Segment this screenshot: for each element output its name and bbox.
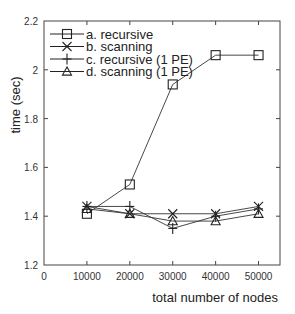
x-tick-label: 0	[41, 271, 47, 282]
line-chart: 010000200003000040000500001.21.41.61.822…	[0, 0, 295, 314]
x-axis-title: total number of nodes	[152, 290, 278, 305]
y-tick-label: 1.6	[24, 162, 38, 173]
legend-label: d. scanning (1 PE)	[86, 64, 193, 79]
legend: a. recursiveb. scanningc. recursive (1 P…	[50, 27, 193, 80]
y-axis-title: time (sec)	[8, 76, 23, 133]
y-tick-label: 1.8	[24, 114, 38, 125]
y-tick-label: 1.2	[24, 260, 38, 271]
x-tick-label: 20000	[116, 271, 144, 282]
x-tick-label: 50000	[245, 271, 273, 282]
x-tick-label: 10000	[73, 271, 101, 282]
legend-item: d. scanning (1 PE)	[50, 64, 193, 79]
y-tick-label: 2.2	[24, 16, 38, 27]
y-tick-label: 2	[32, 65, 38, 76]
x-tick-label: 30000	[159, 271, 187, 282]
x-tick-label: 40000	[202, 271, 230, 282]
y-tick-label: 1.4	[24, 211, 38, 222]
